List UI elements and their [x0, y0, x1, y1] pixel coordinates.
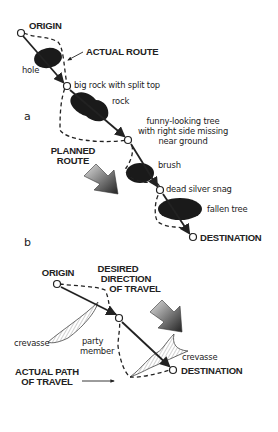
party-label-1: party — [82, 336, 103, 346]
actual-route-pointer — [68, 52, 83, 60]
destination-node — [190, 234, 197, 241]
funny-tree-label-3: near ground — [158, 136, 207, 146]
crevasse-left-label: crevasse — [14, 338, 49, 348]
origin-node-b — [54, 281, 61, 288]
desired-direction-arrow — [150, 300, 182, 332]
crevasse-right-label: crevasse — [182, 352, 217, 362]
fallen-tree-obstacle — [158, 198, 202, 220]
funny-tree-label-1: funny-looking tree — [147, 116, 220, 126]
funny-tree-node — [125, 137, 132, 144]
part-a: ORIGIN ACTUAL ROUTE hole big rock with s… — [18, 20, 262, 243]
destination-label-b: DESTINATION — [181, 365, 243, 376]
funny-tree-label-2: with right side missing — [138, 126, 228, 136]
navigation-diagram: ORIGIN ACTUAL ROUTE hole big rock with s… — [0, 0, 278, 432]
part-b-label: b — [24, 236, 31, 249]
big-rock-label: big rock with split top — [74, 80, 160, 90]
dead-snag-node — [157, 187, 164, 194]
actual-route-label: ACTUAL ROUTE — [86, 46, 158, 57]
origin-node — [18, 30, 25, 37]
desired-label-3: OF TRAVEL — [109, 283, 161, 294]
party-member-node — [116, 315, 123, 322]
party-label-2: member — [80, 346, 115, 356]
fallen-tree-label: fallen tree — [207, 204, 248, 214]
brush-label: brush — [158, 160, 181, 170]
dead-snag-label: dead silver snag — [166, 184, 232, 194]
actual-path-label-2: OF TRAVEL — [21, 376, 73, 387]
rock-label: rock — [112, 96, 129, 106]
big-rock-node — [64, 83, 71, 90]
origin-label-b: ORIGIN — [42, 267, 75, 278]
hole-label: hole — [22, 65, 39, 75]
planned-route-label-2: ROUTE — [57, 155, 89, 166]
part-a-label: a — [24, 110, 31, 123]
destination-node-b — [170, 367, 177, 374]
part-b: b ORIGIN DESIRED DIRECTION OF TRAVEL cre… — [14, 236, 243, 387]
planned-route-arrow — [84, 164, 118, 194]
origin-label: ORIGIN — [29, 20, 62, 31]
direct-line-1 — [61, 287, 115, 314]
destination-label-a: DESTINATION — [200, 232, 262, 243]
